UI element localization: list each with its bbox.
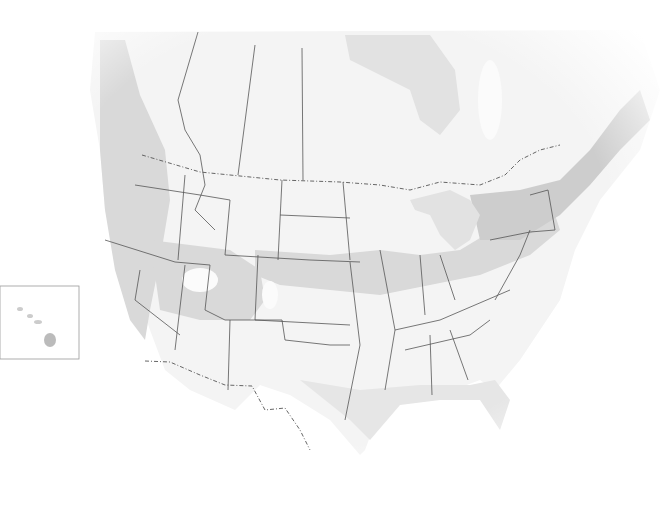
- north-america-map: [0, 0, 665, 509]
- hawaii-islands: [44, 333, 56, 347]
- hawaii-inset: [0, 286, 79, 359]
- edge-fade: [0, 0, 665, 509]
